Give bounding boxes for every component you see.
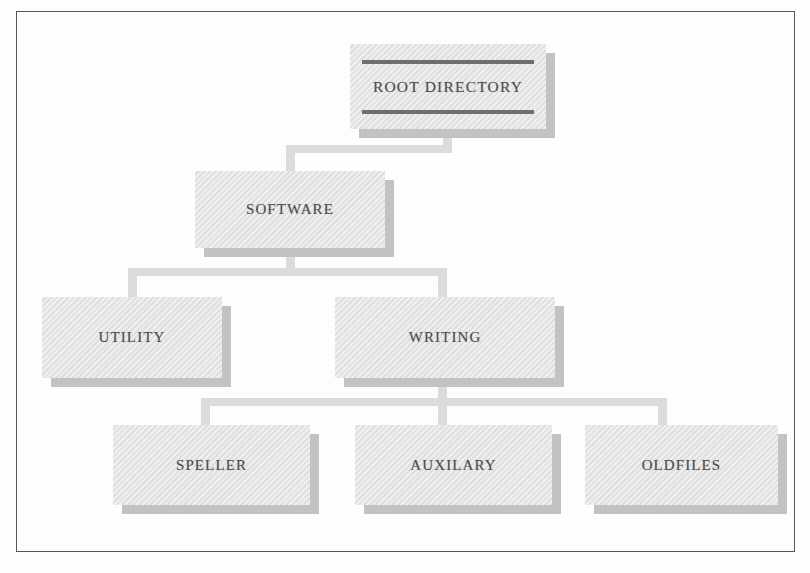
connector-auxilary-stub [438,398,447,427]
node-rule-bottom [362,110,534,114]
node-oldfiles[interactable]: OLDFILES [585,425,778,505]
node-root-directory[interactable]: ROOT DIRECTORY [350,44,546,129]
node-software[interactable]: SOFTWARE [195,171,385,248]
connector-software-stub [286,145,295,173]
node-face: WRITING [335,297,555,378]
connector-oldfiles-stub [658,398,667,427]
node-utility[interactable]: UTILITY [42,297,222,378]
connector-root-to-software-bar [286,145,452,153]
node-speller[interactable]: SPELLER [113,425,310,505]
node-label: WRITING [409,329,482,346]
node-rule-top [362,60,534,64]
node-writing[interactable]: WRITING [335,297,555,378]
node-label: SOFTWARE [246,201,334,218]
node-auxilary[interactable]: AUXILARY [355,425,552,505]
connector-speller-stub [201,398,210,427]
node-face: ROOT DIRECTORY [350,44,546,129]
node-face: SOFTWARE [195,171,385,248]
node-label: ROOT DIRECTORY [373,78,523,96]
node-face: SPELLER [113,425,310,505]
node-face: AUXILARY [355,425,552,505]
node-face: OLDFILES [585,425,778,505]
node-label: OLDFILES [642,457,722,474]
connector-level3-bar [201,398,667,406]
node-label: UTILITY [99,329,166,346]
connector-writing-stub [438,268,447,299]
node-label: AUXILARY [410,457,496,474]
connector-level2-bar [128,268,447,276]
connector-utility-stub [128,268,137,299]
node-face: UTILITY [42,297,222,378]
node-label: SPELLER [176,457,247,474]
diagram-canvas: ROOT DIRECTORY SOFTWARE UTILITY WRITING … [0,0,810,573]
